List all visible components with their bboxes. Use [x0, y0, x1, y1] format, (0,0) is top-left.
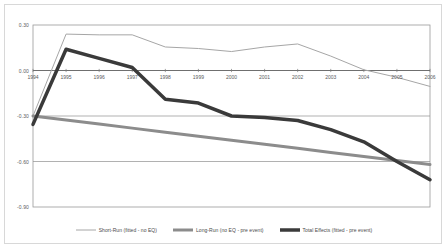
y-tick-label: -0.60 — [7, 159, 29, 165]
x-tick-label: 1995 — [61, 74, 72, 80]
series-line-3 — [33, 49, 430, 179]
x-tick-label: 2001 — [259, 74, 270, 80]
legend-line-swatch — [173, 226, 193, 234]
x-tick-label: 2006 — [424, 74, 435, 80]
x-tick-label: 1997 — [127, 74, 138, 80]
legend-item-label: Total Effects (fitted - pre event) — [303, 227, 373, 233]
legend-item-label: Long-Run (no EQ - pre event) — [196, 227, 264, 233]
y-tick-label: -0.30 — [7, 113, 29, 119]
legend-item: Short-Run (fitted - no EQ) — [76, 226, 157, 234]
legend-item: Total Effects (fitted - pre event) — [280, 226, 373, 234]
legend-line-swatch — [76, 226, 96, 234]
x-tick-label: 2005 — [391, 74, 402, 80]
y-tick-label: 0.00 — [7, 68, 29, 74]
chart-legend: Short-Run (fitted - no EQ)Long-Run (no E… — [0, 222, 448, 238]
x-tick-label: 2000 — [226, 74, 237, 80]
y-tick-label: 0.30 — [7, 22, 29, 28]
x-tick-label: 1998 — [160, 74, 171, 80]
x-tick-label: 1999 — [193, 74, 204, 80]
chart-root: 0.300.00-0.30-0.60-0.90 1994199519961997… — [0, 0, 448, 249]
legend-item: Long-Run (no EQ - pre event) — [173, 226, 264, 234]
x-tick-label: 2003 — [325, 74, 336, 80]
line-chart-plot — [0, 0, 448, 249]
x-tick-label: 1996 — [94, 74, 105, 80]
legend-line-swatch — [280, 226, 300, 234]
x-tick-label: 1994 — [27, 74, 38, 80]
x-tick-label: 2002 — [292, 74, 303, 80]
x-tick-label: 2004 — [358, 74, 369, 80]
y-tick-label: -0.90 — [7, 204, 29, 210]
legend-item-label: Short-Run (fitted - no EQ) — [99, 227, 157, 233]
series-line-2 — [33, 116, 430, 165]
